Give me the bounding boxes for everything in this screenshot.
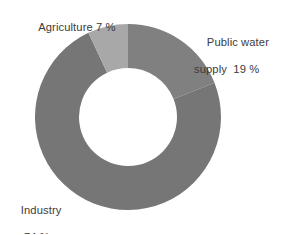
slice-label-public-water-supply: Public water supply 19 % [194, 22, 269, 103]
slice-label-industry-line1: Industry [21, 204, 62, 216]
slice-label-industry-line2: 74 % [8, 231, 61, 235]
slice-label-industry: Industry 74 % [8, 190, 61, 234]
slice-label-public-water-supply-line2: supply 19 % [194, 63, 269, 77]
donut-chart: Agriculture 7 % Public water supply 19 %… [0, 0, 281, 234]
slice-label-agriculture-line1: Agriculture 7 % [38, 21, 115, 33]
slice-label-public-water-supply-line1: Public water [207, 36, 269, 48]
slice-label-agriculture: Agriculture 7 % [26, 7, 116, 48]
